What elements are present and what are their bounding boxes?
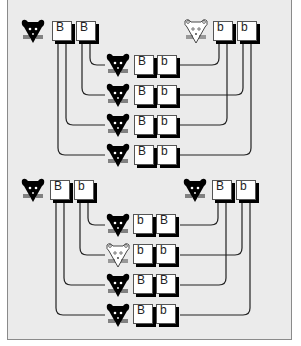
allele-box: b bbox=[237, 21, 257, 41]
allele-box: b bbox=[156, 304, 176, 324]
white-mouse-icon bbox=[183, 18, 209, 44]
black-mouse-icon bbox=[105, 112, 131, 138]
allele-label: B bbox=[137, 304, 145, 317]
allele-label: b bbox=[160, 304, 167, 317]
white-mouse-icon bbox=[105, 242, 131, 268]
allele-label: B bbox=[138, 145, 146, 158]
allele-box: B bbox=[156, 214, 176, 234]
allele-box: b bbox=[133, 244, 153, 264]
black-mouse-icon bbox=[105, 302, 131, 328]
allele-box: B bbox=[76, 21, 96, 41]
allele-label: b bbox=[161, 115, 168, 128]
allele-label: B bbox=[137, 274, 145, 287]
allele-label: b bbox=[161, 145, 168, 158]
allele-label: b bbox=[137, 214, 144, 227]
allele-box: b bbox=[157, 145, 177, 165]
black-mouse-icon bbox=[182, 177, 208, 203]
black-mouse-icon bbox=[105, 212, 131, 238]
allele-label: B bbox=[138, 85, 146, 98]
black-mouse-icon bbox=[20, 177, 46, 203]
allele-label: B bbox=[160, 214, 168, 227]
allele-label: b bbox=[78, 180, 85, 193]
allele-box: B bbox=[133, 304, 153, 324]
allele-box: b bbox=[213, 21, 233, 41]
inheritance-lines bbox=[0, 0, 301, 346]
allele-box: B bbox=[212, 180, 232, 200]
black-mouse-icon bbox=[105, 142, 131, 168]
allele-box: b bbox=[236, 180, 256, 200]
allele-box: b bbox=[157, 115, 177, 135]
allele-box: B bbox=[134, 115, 154, 135]
allele-box: b bbox=[74, 180, 94, 200]
allele-box: b bbox=[156, 244, 176, 264]
allele-label: B bbox=[56, 21, 64, 34]
allele-label: B bbox=[216, 180, 224, 193]
allele-label: B bbox=[54, 180, 62, 193]
allele-box: B bbox=[134, 55, 154, 75]
allele-box: B bbox=[133, 274, 153, 294]
allele-box: b bbox=[133, 214, 153, 234]
allele-box: B bbox=[50, 180, 70, 200]
allele-label: b bbox=[161, 55, 168, 68]
allele-box: B bbox=[134, 85, 154, 105]
allele-box: B bbox=[156, 274, 176, 294]
allele-box: b bbox=[157, 55, 177, 75]
allele-label: B bbox=[160, 274, 168, 287]
allele-label: b bbox=[161, 85, 168, 98]
allele-label: b bbox=[241, 21, 248, 34]
allele-label: B bbox=[138, 115, 146, 128]
black-mouse-icon bbox=[105, 52, 131, 78]
allele-label: b bbox=[240, 180, 247, 193]
black-mouse-icon bbox=[105, 82, 131, 108]
black-mouse-icon bbox=[105, 272, 131, 298]
allele-label: B bbox=[80, 21, 88, 34]
allele-label: B bbox=[138, 55, 146, 68]
black-mouse-icon bbox=[20, 18, 46, 44]
allele-box: b bbox=[157, 85, 177, 105]
allele-box: B bbox=[134, 145, 154, 165]
allele-box: B bbox=[52, 21, 72, 41]
allele-label: b bbox=[217, 21, 224, 34]
allele-label: b bbox=[160, 244, 167, 257]
allele-label: b bbox=[137, 244, 144, 257]
